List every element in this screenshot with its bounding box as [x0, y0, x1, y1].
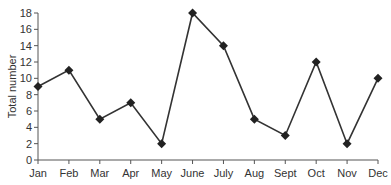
y-tick-label: 8	[26, 89, 32, 101]
data-point-marker	[374, 74, 383, 83]
data-point-marker	[95, 115, 104, 124]
y-tick-label: 14	[20, 40, 32, 52]
x-tick-label: July	[214, 167, 234, 179]
x-tick-label: May	[151, 167, 172, 179]
y-tick-label: 6	[26, 105, 32, 117]
line-chart: 024681012141618 JanFebMarAprMayJuneJulyA…	[0, 0, 391, 185]
y-tick-label: 4	[26, 121, 32, 133]
y-axis-title: Total number	[6, 54, 18, 118]
x-tick-label: Apr	[122, 167, 139, 179]
series-line	[38, 13, 378, 144]
x-tick-label: Oct	[308, 167, 325, 179]
y-tick-label: 12	[20, 56, 32, 68]
y-tick-label: 16	[20, 23, 32, 35]
data-point-marker	[343, 139, 352, 148]
data-point-marker	[281, 131, 290, 140]
y-tick-label: 10	[20, 72, 32, 84]
x-tick-label: Sept	[274, 167, 297, 179]
x-tick-label: June	[181, 167, 205, 179]
x-tick-label: Aug	[245, 167, 265, 179]
data-point-marker	[312, 58, 321, 67]
data-point-marker	[34, 82, 43, 91]
data-point-marker	[250, 115, 259, 124]
x-tick-label: Jan	[29, 167, 47, 179]
x-tick-label: Mar	[90, 167, 109, 179]
y-tick-label: 2	[26, 138, 32, 150]
x-axis: JanFebMarAprMayJuneJulyAugSeptOctNovDec	[29, 160, 388, 179]
x-tick-label: Nov	[337, 167, 357, 179]
y-tick-label: 0	[26, 154, 32, 166]
x-tick-label: Dec	[368, 167, 388, 179]
y-tick-label: 18	[20, 7, 32, 19]
x-tick-label: Feb	[59, 167, 78, 179]
data-point-marker	[64, 66, 73, 75]
series-total-number	[34, 9, 383, 149]
